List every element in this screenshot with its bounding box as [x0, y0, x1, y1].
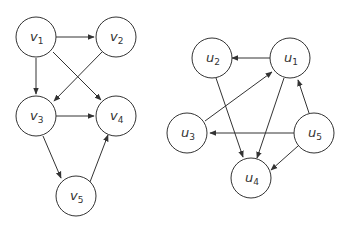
node-v2: v2	[96, 17, 136, 57]
node-u5: u5	[294, 113, 334, 153]
node-v1: v1	[16, 17, 56, 57]
edge-u5-u4	[271, 146, 298, 170]
node-u4: u4	[231, 158, 271, 198]
edge-v1-v4	[53, 52, 101, 100]
edge-v3-v5	[43, 136, 61, 178]
edge-u5-u1	[298, 80, 309, 113]
node-u2: u2	[192, 38, 232, 78]
edge-v5-v4	[90, 135, 108, 182]
label-sub: 1	[38, 36, 44, 46]
node-v4: v4	[96, 96, 136, 136]
edge-u1-u4	[257, 78, 284, 158]
edge-u3-u1	[205, 72, 272, 121]
node-u3: u3	[167, 113, 207, 153]
graph-diagram: v1 v2 v3 v4 v5 u1 u2 u3 u4	[0, 0, 348, 229]
node-u1: u1	[270, 38, 310, 78]
edge-u2-u4	[216, 78, 243, 157]
node-v5: v5	[56, 176, 96, 216]
node-v3: v3	[16, 96, 56, 136]
